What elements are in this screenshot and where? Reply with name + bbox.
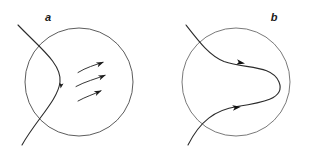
panel-b-label: b <box>271 11 278 23</box>
figure-container: a b <box>0 0 309 161</box>
figure-background <box>0 0 309 161</box>
figure-svg: a b <box>0 0 309 161</box>
panel-a-label: a <box>45 11 51 23</box>
